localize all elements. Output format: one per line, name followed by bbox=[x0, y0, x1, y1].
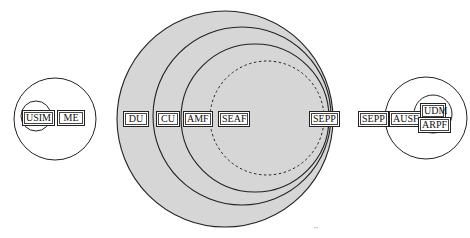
arpf-label: ARPF bbox=[418, 117, 451, 133]
du-label: DU bbox=[123, 111, 149, 127]
me-label: ME bbox=[57, 110, 85, 126]
footer-mark: ′′′ bbox=[314, 226, 318, 232]
usim-label: USIM bbox=[22, 110, 55, 126]
sepp-serving-label: SEPP bbox=[309, 111, 340, 127]
sepp-home-label: SEPP bbox=[358, 111, 389, 127]
amf-label: AMF bbox=[183, 111, 213, 127]
seaf-label: SEAF bbox=[218, 111, 250, 127]
cu-label: CU bbox=[156, 111, 180, 127]
